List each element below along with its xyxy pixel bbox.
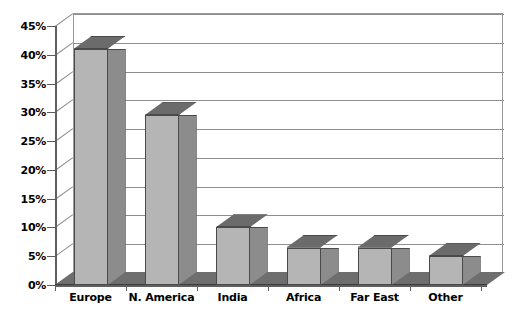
- y-tick-label: 35%: [8, 77, 46, 90]
- bar-far-east: [358, 235, 392, 285]
- left-wall-rung: [55, 215, 74, 229]
- gridline: [74, 100, 504, 101]
- x-tick-mark: [55, 285, 56, 291]
- x-tick-mark: [268, 285, 269, 291]
- bar-front-face: [287, 248, 321, 285]
- bar-india: [216, 214, 250, 285]
- left-wall-rung: [55, 243, 74, 257]
- plot-area: EuropeN. AmericaIndiaAfricaFar EastOther: [55, 0, 523, 318]
- x-tick-label: Africa: [286, 291, 321, 304]
- y-tick-label: 25%: [8, 135, 46, 148]
- bar-front-face: [74, 49, 108, 285]
- y-tick-mark: [47, 112, 55, 113]
- gridline: [74, 43, 504, 44]
- bar-front-face: [145, 115, 179, 285]
- left-wall-rung: [55, 13, 74, 27]
- bar-front-face: [358, 248, 392, 285]
- left-wall-rung: [55, 42, 74, 56]
- bar-n-america: [145, 102, 179, 285]
- bar-europe: [74, 36, 108, 285]
- y-tick-mark: [47, 55, 55, 56]
- x-tick-label: N. America: [129, 291, 195, 304]
- gridline: [74, 215, 504, 216]
- x-tick-mark: [197, 285, 198, 291]
- x-tick-mark: [481, 285, 482, 291]
- bar-side-face: [179, 115, 197, 285]
- bar-front-face: [216, 227, 250, 285]
- y-tick-mark: [47, 26, 55, 27]
- bar-chart: 0%5%10%15%20%25%30%35%40%45% EuropeN. Am…: [0, 0, 523, 318]
- plot-back-wall: [73, 13, 503, 272]
- gridline: [74, 72, 504, 73]
- x-axis-line: [55, 285, 487, 287]
- bar-side-face: [108, 49, 126, 285]
- y-tick-label: 0%: [8, 279, 46, 292]
- bar-other: [429, 243, 463, 285]
- y-tick-mark: [47, 227, 55, 228]
- x-tick-mark: [126, 285, 127, 291]
- y-tick-mark: [47, 199, 55, 200]
- y-axis-line: [55, 26, 57, 285]
- y-tick-label: 5%: [8, 250, 46, 263]
- left-wall-rung: [55, 128, 74, 142]
- y-tick-label: 40%: [8, 48, 46, 61]
- y-tick-label: 45%: [8, 20, 46, 33]
- x-tick-label: Europe: [69, 291, 111, 304]
- y-tick-label: 20%: [8, 163, 46, 176]
- x-tick-label: Far East: [350, 291, 399, 304]
- x-tick-label: India: [218, 291, 248, 304]
- y-tick-mark: [47, 141, 55, 142]
- left-wall-rung: [55, 71, 74, 85]
- y-axis: 0%5%10%15%20%25%30%35%40%45%: [0, 0, 46, 318]
- bar-africa: [287, 235, 321, 285]
- y-tick-mark: [47, 170, 55, 171]
- left-wall-rung: [55, 157, 74, 171]
- left-wall-rung: [55, 99, 74, 113]
- plot-left-wall: [55, 0, 75, 290]
- bar-front-face: [429, 256, 463, 285]
- gridline: [74, 14, 504, 15]
- left-wall-rung: [55, 186, 74, 200]
- gridline: [74, 129, 504, 130]
- y-tick-mark: [47, 256, 55, 257]
- gridline: [74, 187, 504, 188]
- y-tick-label: 30%: [8, 106, 46, 119]
- y-tick-mark: [47, 285, 55, 286]
- gridline: [74, 158, 504, 159]
- x-tick-mark: [339, 285, 340, 291]
- x-tick-mark: [410, 285, 411, 291]
- x-tick-label: Other: [428, 291, 462, 304]
- y-tick-mark: [47, 84, 55, 85]
- y-tick-label: 10%: [8, 221, 46, 234]
- y-tick-label: 15%: [8, 192, 46, 205]
